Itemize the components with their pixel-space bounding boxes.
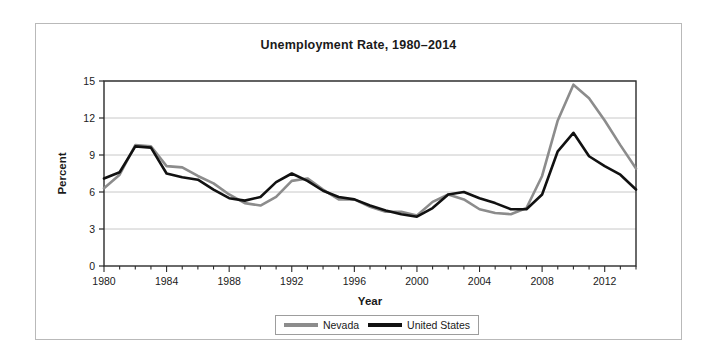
legend-swatch-united-states-icon: [368, 323, 402, 327]
chart-plot-area: 0369121519801984198819921996200020042008…: [0, 0, 718, 358]
x-axis-tick-label: 1996: [343, 275, 367, 287]
x-axis-tick-label: 1984: [155, 275, 179, 287]
legend-label-nevada: Nevada: [323, 319, 359, 331]
y-axis-tick-label: 3: [89, 223, 95, 235]
y-axis-tick-label: 9: [89, 149, 95, 161]
legend-swatch-nevada-icon: [284, 323, 318, 327]
x-axis-tick-label: 2000: [405, 275, 429, 287]
x-axis-tick-label: 1992: [280, 275, 304, 287]
legend-label-united-states: United States: [407, 319, 470, 331]
legend-item-united-states[interactable]: United States: [368, 319, 470, 331]
x-axis-tick-label: 2008: [530, 275, 554, 287]
series-line-nevada: [104, 85, 636, 216]
series-line-united-states: [104, 133, 636, 217]
y-axis-tick-label: 0: [89, 260, 95, 272]
x-axis-tick-label: 1988: [217, 275, 241, 287]
y-axis-tick-label: 6: [89, 186, 95, 198]
x-axis-tick-label: 2012: [593, 275, 617, 287]
y-axis-tick-label: 12: [83, 112, 95, 124]
legend-item-nevada[interactable]: Nevada: [284, 319, 359, 331]
y-axis-title: Percent: [56, 152, 68, 194]
chart-legend: Nevada United States: [275, 315, 479, 335]
x-axis-tick-label: 2004: [468, 275, 492, 287]
y-axis-tick-label: 15: [83, 75, 95, 87]
plot-border: [104, 81, 636, 266]
x-axis-tick-label: 1980: [92, 275, 116, 287]
chart-svg: 0369121519801984198819921996200020042008…: [0, 0, 718, 358]
x-axis-title: Year: [358, 295, 383, 307]
